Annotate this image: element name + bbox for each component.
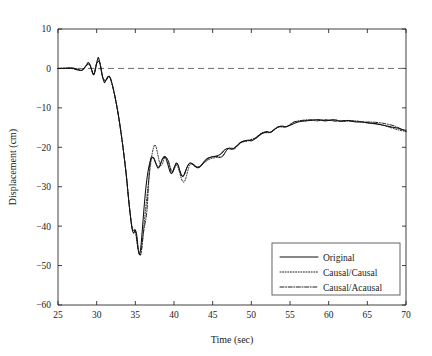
y-tick-label: −50 xyxy=(36,261,51,271)
y-tick-label: −20 xyxy=(36,143,51,153)
chart-figure: 25303540455055606570 −60−50−40−30−20−100… xyxy=(0,0,432,356)
x-tick-label: 55 xyxy=(285,310,295,320)
y-tick-label: −40 xyxy=(36,222,51,232)
legend-label: Original xyxy=(323,253,355,263)
y-tick-label: 10 xyxy=(42,24,52,34)
displacement-time-plot: 25303540455055606570 −60−50−40−30−20−100… xyxy=(0,0,432,356)
x-tick-label: 50 xyxy=(247,310,257,320)
y-tick-label: −10 xyxy=(36,103,51,113)
x-tick-label: 60 xyxy=(324,310,334,320)
y-tick-label: −30 xyxy=(36,182,51,192)
legend-label: Causal/Causal xyxy=(323,268,378,278)
y-tick-label: 0 xyxy=(46,64,51,74)
y-tick-label: −60 xyxy=(36,300,51,310)
legend-label: Causal/Acausal xyxy=(323,283,382,293)
y-axis-title: Displacement (cm) xyxy=(7,129,19,205)
x-tick-label: 40 xyxy=(169,310,179,320)
x-tick-label: 45 xyxy=(208,310,218,320)
x-axis-title: Time (sec) xyxy=(211,334,254,346)
x-tick-label: 35 xyxy=(131,310,141,320)
x-tick-label: 25 xyxy=(53,310,63,320)
x-tick-label: 70 xyxy=(401,310,411,320)
x-tick-label: 30 xyxy=(92,310,102,320)
legend: OriginalCausal/CausalCausal/Acausal xyxy=(272,243,400,295)
x-tick-label: 65 xyxy=(363,310,373,320)
